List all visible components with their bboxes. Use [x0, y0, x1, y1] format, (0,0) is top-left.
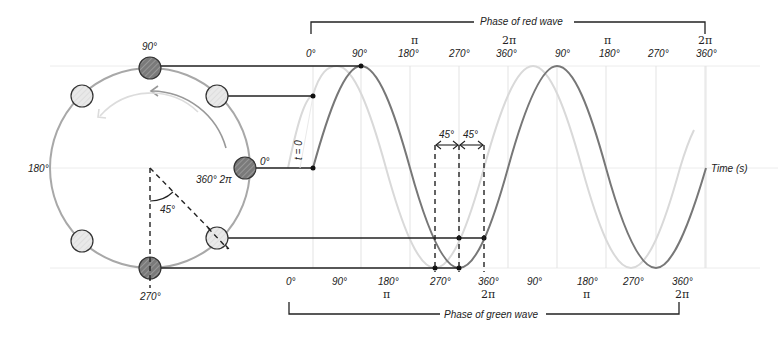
- angle-label: 45°: [160, 204, 175, 215]
- svg-text:360°: 360°: [672, 276, 693, 287]
- svg-text:270°: 270°: [448, 48, 470, 59]
- bottom-axis-ticks: 0° 90° 180° π 270° 360° 2π 90° 180° π 27…: [286, 276, 693, 301]
- phase-diagram: 45° t = 0 90° 180° 270° 0°: [0, 0, 778, 337]
- svg-text:270°: 270°: [429, 276, 451, 287]
- svg-text:90°: 90°: [332, 276, 347, 287]
- red-phase-label: Phase of red wave: [480, 16, 563, 27]
- svg-text:180°: 180°: [577, 276, 598, 287]
- svg-text:360°: 360°: [696, 48, 717, 59]
- svg-text:π: π: [583, 288, 590, 301]
- svg-text:π: π: [604, 34, 611, 47]
- dot-135: [71, 85, 93, 107]
- svg-text:2π: 2π: [481, 288, 495, 301]
- svg-text:360°: 360°: [478, 276, 499, 287]
- svg-text:180°: 180°: [378, 276, 399, 287]
- circle-label-180: 180°: [28, 163, 49, 174]
- svg-text:2π: 2π: [502, 34, 516, 47]
- svg-text:2π: 2π: [698, 34, 712, 47]
- dot-0: [234, 157, 256, 179]
- angle-arc: [150, 192, 173, 201]
- circle-label-90: 90°: [142, 41, 157, 52]
- dot-45: [206, 85, 228, 107]
- svg-text:90°: 90°: [352, 48, 367, 59]
- svg-text:360°: 360°: [496, 48, 517, 59]
- svg-text:180°: 180°: [599, 48, 620, 59]
- circle-label-0: 0°: [260, 156, 270, 167]
- svg-text:270°: 270°: [622, 276, 644, 287]
- top-axis-ticks: 0° 90° 180° π 270° 360° 2π 90° 180° π 27…: [306, 34, 717, 59]
- svg-text:0°: 0°: [306, 48, 316, 59]
- time-axis-label: Time (s): [711, 163, 748, 174]
- rotation-arrow-light-icon: [100, 93, 198, 116]
- t0-label: t = 0: [293, 140, 304, 160]
- svg-text:π: π: [383, 288, 390, 301]
- delta-label-1: 45°: [439, 129, 454, 140]
- svg-text:90°: 90°: [555, 48, 570, 59]
- delta-label-2: 45°: [463, 129, 478, 140]
- svg-text:π: π: [411, 34, 418, 47]
- svg-text:270°: 270°: [647, 48, 669, 59]
- dot-225: [71, 230, 93, 252]
- dot-90: [139, 57, 161, 79]
- circle-label-360: 360° 2π: [196, 174, 232, 185]
- svg-text:90°: 90°: [527, 276, 542, 287]
- circle-label-270: 270°: [139, 291, 161, 302]
- svg-text:2π: 2π: [675, 288, 689, 301]
- green-phase-label: Phase of green wave: [444, 309, 538, 320]
- svg-text:180°: 180°: [398, 48, 419, 59]
- svg-text:0°: 0°: [286, 276, 296, 287]
